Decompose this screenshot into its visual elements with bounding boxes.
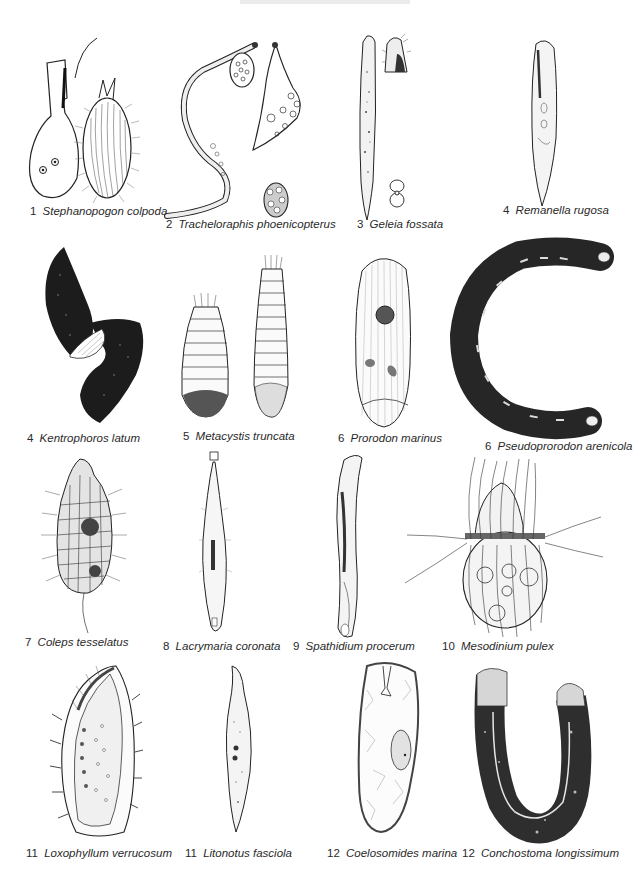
prorodon-drawing	[350, 255, 420, 430]
caption-stephanopogon-colpoda: 1 Stephanopogon colpoda	[30, 205, 167, 217]
caption-geleia-fossata: 3 Geleia fossata	[357, 218, 443, 230]
species-name: Pseudoprorodon arenicola	[498, 440, 633, 452]
species-name: Prorodon marinus	[351, 432, 442, 444]
caption-loxophyllum-verrucosum: 11 Loxophyllum verrucosum	[26, 847, 172, 859]
figure-tracheloraphis-phoenicopterus	[165, 40, 315, 220]
species-name: Spathidium procerum	[306, 640, 415, 652]
figure-coleps-tesselatus	[40, 455, 130, 635]
figure-mesodinium-pulex	[405, 455, 605, 640]
tracheloraphis-drawing	[165, 40, 315, 220]
species-name: Tracheloraphis phoenicopterus	[179, 218, 336, 230]
faded-header	[240, 0, 410, 4]
figure-number: 4	[27, 432, 33, 444]
figure-number: 10	[442, 640, 455, 652]
figure-metacystis-truncata	[170, 255, 310, 425]
pseudoprorodon-drawing	[460, 245, 610, 435]
species-name: Stephanopogon colpoda	[43, 205, 168, 217]
kentrophoros-drawing	[40, 245, 150, 425]
conchostoma-drawing	[475, 662, 595, 837]
caption-tracheloraphis-phoenicopterus: 2 Tracheloraphis phoenicopterus	[166, 218, 336, 230]
spathidium-drawing	[330, 452, 370, 642]
stephanopogon-drawing	[25, 38, 145, 203]
figure-number: 7	[25, 636, 31, 648]
loxophyllum-drawing	[48, 660, 143, 840]
lacrymaria-drawing	[195, 450, 235, 640]
species-name: Coleps tesselatus	[38, 636, 129, 648]
species-name: Mesodinium pulex	[461, 640, 554, 652]
figure-coelosomides-marina	[355, 660, 425, 840]
caption-pseudoprorodon-arenicola: 6 Pseudoprorodon arenicola	[485, 440, 633, 452]
figure-number: 11	[26, 847, 38, 859]
figure-number: 5	[183, 430, 189, 442]
caption-remanella-rugosa: 4 Remanella rugosa	[503, 204, 609, 216]
geleia-drawing	[355, 32, 435, 222]
figure-number: 6	[485, 440, 491, 452]
species-name: Coelosomides marina	[346, 847, 457, 859]
illustration-plate: 1 Stephanopogon colpoda 2 Tracheloraphis…	[0, 0, 643, 879]
species-name: Metacystis truncata	[196, 430, 295, 442]
species-name: Lacrymaria coronata	[176, 640, 281, 652]
caption-prorodon-marinus: 6 Prorodon marinus	[338, 432, 442, 444]
figure-loxophyllum-verrucosum	[48, 660, 143, 840]
figure-lacrymaria-coronata	[195, 450, 235, 640]
species-name: Remanella rugosa	[516, 204, 609, 216]
figure-number: 11	[185, 847, 197, 859]
litonotus-drawing	[222, 662, 262, 837]
figure-number: 2	[166, 218, 172, 230]
figure-number: 4	[503, 204, 509, 216]
mesodinium-drawing	[405, 455, 605, 640]
figure-number: 1	[30, 205, 36, 217]
species-name: Litonotus fasciola	[203, 847, 292, 859]
species-name: Conchostoma longissimum	[481, 847, 619, 859]
coleps-drawing	[40, 455, 130, 635]
figure-number: 12	[327, 847, 340, 859]
figure-stephanopogon-colpoda	[25, 38, 145, 203]
figure-spathidium-procerum	[330, 452, 370, 642]
figure-number: 8	[163, 640, 169, 652]
caption-mesodinium-pulex: 10 Mesodinium pulex	[442, 640, 554, 652]
caption-litonotus-fasciola: 11 Litonotus fasciola	[185, 847, 292, 859]
figure-remanella-rugosa	[528, 38, 568, 208]
remanella-drawing	[528, 38, 568, 208]
figure-number: 12	[462, 847, 475, 859]
figure-geleia-fossata	[355, 32, 435, 222]
caption-metacystis-truncata: 5 Metacystis truncata	[183, 430, 295, 442]
figure-kentrophoros-latum	[40, 245, 150, 425]
caption-kentrophoros-latum: 4 Kentrophoros latum	[27, 432, 140, 444]
species-name: Loxophyllum verrucosum	[44, 847, 172, 859]
caption-coelosomides-marina: 12 Coelosomides marina	[327, 847, 457, 859]
figure-number: 3	[357, 218, 363, 230]
caption-coleps-tesselatus: 7 Coleps tesselatus	[25, 636, 128, 648]
figure-prorodon-marinus	[350, 255, 420, 430]
caption-spathidium-procerum: 9 Spathidium procerum	[293, 640, 415, 652]
figure-number: 6	[338, 432, 344, 444]
figure-litonotus-fasciola	[222, 662, 262, 837]
species-name: Kentrophoros latum	[40, 432, 140, 444]
caption-conchostoma-longissimum: 12 Conchostoma longissimum	[462, 847, 619, 859]
species-name: Geleia fossata	[370, 218, 444, 230]
figure-number: 9	[293, 640, 299, 652]
figure-conchostoma-longissimum	[475, 662, 595, 837]
coelosomides-drawing	[355, 660, 425, 840]
figure-pseudoprorodon-arenicola	[460, 245, 610, 435]
metacystis-drawing	[170, 255, 310, 425]
caption-lacrymaria-coronata: 8 Lacrymaria coronata	[163, 640, 280, 652]
